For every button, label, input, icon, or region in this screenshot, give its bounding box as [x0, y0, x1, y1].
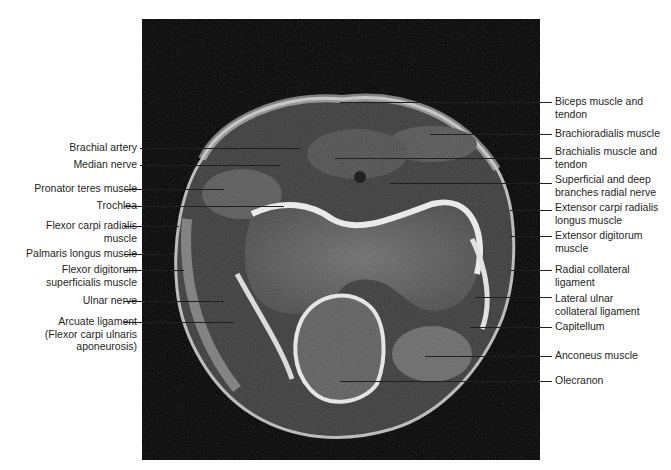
label-palmaris-longus: Palmaris longus muscle [26, 247, 137, 260]
label-biceps: Biceps muscle and tendon [555, 95, 643, 120]
label-lateral-ulnar-collateral: Lateral ulnar collateral ligament [555, 292, 640, 317]
leader-radial-nerve [390, 183, 552, 184]
label-pronator-teres: Pronator teres muscle [34, 182, 137, 195]
leader-extensor-digitorum [510, 236, 552, 237]
leader-palmaris-longus [124, 254, 174, 255]
leader-brachial-artery [140, 148, 300, 149]
label-ecrl: Extensor carpi radialis longus muscle [555, 201, 658, 226]
label-flexor-digitorum-superficialis: Flexor digitorum superficialis muscle [46, 263, 137, 288]
leader-biceps [340, 102, 552, 103]
leader-lateral-ulnar-collateral [475, 297, 552, 298]
label-brachioradialis: Brachioradialis muscle [555, 127, 660, 140]
leader-ecrl [510, 210, 552, 211]
leader-brachialis [335, 158, 552, 159]
label-radial-nerve: Superficial and deep branches radial ner… [555, 173, 656, 198]
label-arcuate-ligament: Arcuate ligament (Flexor carpi ulnaris a… [45, 315, 137, 353]
leader-pronator-teres [124, 189, 224, 190]
leader-olecranon [340, 381, 552, 382]
label-anconeus: Anconeus muscle [555, 349, 638, 362]
leader-brachioradialis [430, 134, 552, 135]
elbow-axial-mri [142, 19, 540, 460]
leader-capitellum [470, 327, 552, 328]
label-extensor-digitorum: Extensor digitorum muscle [555, 229, 643, 254]
label-capitellum: Capitellum [555, 320, 605, 333]
label-brachial-artery: Brachial artery [69, 141, 137, 154]
label-flexor-carpi-radialis: Flexor carpi radialis muscle [46, 219, 137, 244]
leader-anconeus [425, 356, 552, 357]
leader-arcuate-ligament [124, 322, 234, 323]
leader-median-nerve [140, 165, 280, 166]
label-radial-collateral: Radial collateral ligament [555, 263, 630, 288]
leader-ulnar-nerve [124, 301, 224, 302]
leader-trochlea [124, 206, 284, 207]
label-olecranon: Olecranon [555, 374, 603, 387]
label-median-nerve: Median nerve [73, 158, 137, 171]
leader-flexor-carpi-radialis [124, 226, 179, 227]
leader-flexor-digitorum-superficialis [124, 270, 184, 271]
leader-radial-collateral [510, 270, 552, 271]
mri-image-panel [142, 19, 540, 460]
label-brachialis: Brachialis muscle and tendon [555, 145, 657, 170]
